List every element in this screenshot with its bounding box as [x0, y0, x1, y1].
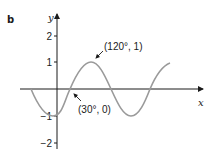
annotation-arrow-zero	[74, 94, 81, 101]
y-tick-label: −2	[41, 138, 53, 149]
annotation-zero-label: (30°, 0)	[78, 104, 111, 115]
y-axis-label: y	[47, 12, 54, 23]
y-tick-labels: 2 1 −1 −2	[41, 31, 53, 149]
y-tick-label: 1	[46, 57, 52, 68]
annotation-max-label: (120°, 1)	[104, 41, 142, 52]
annotation-arrow-max	[96, 51, 103, 58]
sine-chart: x y 2 1 −1 −2 (120°, 1) (30°, 0)	[0, 0, 216, 159]
y-tick-label: 2	[46, 31, 52, 42]
x-axis-label: x	[198, 97, 204, 108]
